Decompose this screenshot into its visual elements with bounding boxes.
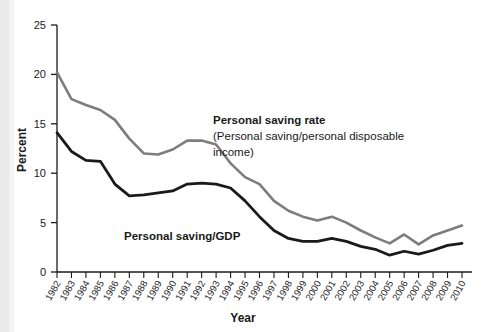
y-tick-label: 10: [34, 167, 46, 179]
y-tick-label: 25: [34, 19, 46, 31]
personal-saving-rate-annotation-line1: Personal saving rate: [213, 114, 326, 126]
y-tick-label: 15: [34, 118, 46, 130]
y-axis-ticks: 0510152025: [34, 19, 57, 278]
y-tick-label: 20: [34, 68, 46, 80]
line-chart-svg: 0510152025 19821983198419851986198719881…: [0, 0, 488, 332]
y-axis-title: Percent: [15, 128, 29, 172]
x-tick-label: 2010: [448, 279, 468, 303]
personal-saving-rate-annotation-line2: (Personal saving/personal disposable: [213, 130, 404, 142]
personal-saving-gdp-annotation-line1: Personal saving/GDP: [124, 230, 241, 242]
y-tick-label: 5: [40, 217, 46, 229]
x-axis-title: Year: [230, 311, 256, 325]
x-axis-ticks: 1982198319841985198619871988198919901991…: [43, 272, 468, 302]
chart-figure: 0510152025 19821983198419851986198719881…: [0, 0, 488, 332]
y-tick-label: 0: [40, 266, 46, 278]
personal-saving-rate-annotation-line3: income): [213, 146, 254, 158]
